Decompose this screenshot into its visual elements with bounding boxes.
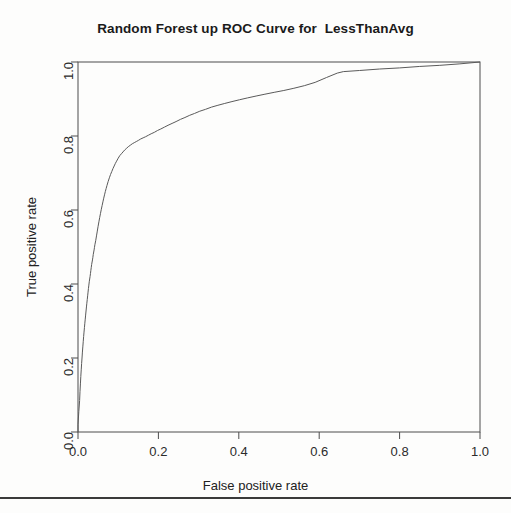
x-tick-label: 0.2 bbox=[149, 444, 167, 459]
page-separator-rule bbox=[0, 497, 511, 499]
roc-curve-figure: Random Forest up ROC Curve for LessThanA… bbox=[0, 0, 511, 513]
y-tick-label: 0.8 bbox=[61, 136, 76, 154]
x-tick-label: 0.6 bbox=[310, 444, 328, 459]
x-tick-label: 0.4 bbox=[230, 444, 248, 459]
x-tick-label: 0.8 bbox=[391, 444, 409, 459]
plot-area bbox=[0, 0, 511, 513]
y-tick-label: 0.0 bbox=[61, 432, 76, 450]
roc-curve-line bbox=[78, 62, 480, 432]
y-tick-label: 0.6 bbox=[61, 210, 76, 228]
y-tick-label: 1.0 bbox=[61, 62, 76, 80]
x-axis-title: False positive rate bbox=[0, 478, 511, 493]
plot-frame bbox=[78, 62, 480, 432]
y-axis-title: True positive rate bbox=[24, 197, 39, 297]
axis-ticks bbox=[71, 62, 480, 439]
y-tick-label: 0.4 bbox=[61, 284, 76, 302]
y-tick-label: 0.2 bbox=[61, 358, 76, 376]
x-tick-label: 1.0 bbox=[471, 444, 489, 459]
